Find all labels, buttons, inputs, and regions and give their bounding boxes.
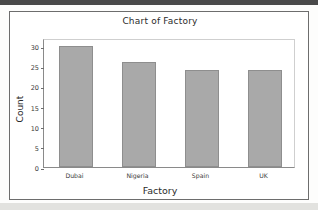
y-tick-label: 10 — [31, 125, 41, 133]
y-tick: 0 — [35, 165, 44, 173]
y-tick-mark — [41, 169, 44, 170]
x-tick-label: Spain — [192, 172, 209, 179]
y-tick: 10 — [31, 125, 44, 133]
y-tick-label: 30 — [31, 44, 41, 52]
y-tick-label: 20 — [31, 84, 41, 92]
scanned-page: Chart of Factory Count 051015202530 Duba… — [0, 0, 318, 210]
y-tick: 25 — [31, 64, 44, 72]
y-tick: 15 — [31, 105, 44, 113]
bars-layer — [44, 40, 294, 167]
x-tick-label: Nigeria — [126, 172, 148, 179]
y-tick-label: 15 — [31, 105, 41, 113]
bar-spain[interactable] — [185, 70, 219, 167]
plot-area: 051015202530 — [43, 39, 295, 168]
bar-nigeria[interactable] — [122, 62, 156, 167]
y-tick: 30 — [31, 44, 44, 52]
y-tick-label: 25 — [31, 64, 41, 72]
bar-slot — [170, 40, 233, 167]
chart-title: Chart of Factory — [10, 16, 310, 26]
bar-slot — [107, 40, 170, 167]
scan-bottom-edge-band — [0, 203, 318, 210]
x-axis-title: Factory — [10, 185, 310, 196]
bar-slot — [44, 40, 107, 167]
x-tick-label: UK — [259, 172, 268, 179]
x-tick-label: Dubai — [65, 172, 83, 179]
bar-dubai[interactable] — [59, 46, 93, 167]
y-tick: 20 — [31, 84, 44, 92]
bar-slot — [233, 40, 296, 167]
y-tick: 5 — [35, 145, 44, 153]
bar-uk[interactable] — [248, 70, 282, 167]
chart-frame: Chart of Factory Count 051015202530 Duba… — [9, 11, 309, 200]
y-axis-title: Count — [15, 79, 25, 139]
